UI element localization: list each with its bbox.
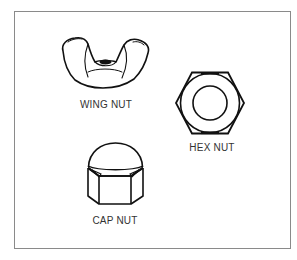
cap-nut-label: CAP NUT	[92, 215, 137, 227]
hex-nut-label: HEX NUT	[189, 142, 234, 154]
wing-nut-label: WING NUT	[80, 99, 132, 111]
diagram-frame	[14, 11, 291, 249]
